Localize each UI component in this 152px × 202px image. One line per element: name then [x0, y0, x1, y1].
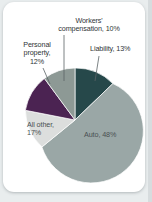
pie-label-all-other-line2: 17% — [27, 128, 41, 137]
pie-label-auto: Auto, 48% — [84, 131, 116, 139]
pie-chart-figure: Workers'compensation, 10% Liability, 13%… — [0, 0, 152, 202]
page-edge-strip — [148, 0, 152, 202]
pie-label-liability: Liability, 13% — [90, 45, 130, 53]
pie-label-workers-compensation-line2: compensation, 10% — [58, 24, 119, 33]
pie-label-personal-property: Personalproperty,12% — [15, 41, 59, 66]
chart-card: Workers'compensation, 10% Liability, 13%… — [3, 2, 145, 192]
pie-label-workers-compensation: Workers'compensation, 10% — [43, 17, 135, 34]
pie-label-all-other: All other,17% — [27, 121, 54, 138]
pie-label-personal-property-line3: 12% — [30, 57, 44, 66]
